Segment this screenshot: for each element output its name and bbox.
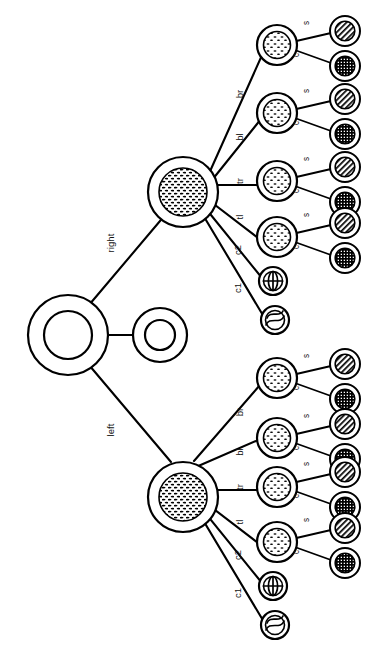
leaf-label-left-tl-c: c [292, 550, 301, 554]
leaf-label-right-br-c: c [292, 53, 301, 57]
edge-label-left-c1: c1 [232, 588, 243, 598]
leaf-right-tr-s[interactable] [330, 152, 360, 182]
edge-label-left-c2: c2 [232, 550, 243, 560]
leaf-label-right-tl-s: s [302, 213, 311, 217]
leaf-label-right-tr-s: s [302, 157, 311, 161]
node-left-tr[interactable] [257, 467, 297, 507]
node-left-br[interactable] [257, 358, 297, 398]
node-left-bl[interactable] [257, 418, 297, 458]
edge-label-right-bl: bl [234, 133, 245, 141]
leaf-right-br-s[interactable] [330, 16, 360, 46]
leaf-right-tl-s[interactable] [330, 208, 360, 238]
leaf-right-br-c[interactable] [330, 51, 360, 81]
leaf-label-left-br-c: c [292, 386, 301, 390]
node-right-br[interactable] [257, 25, 297, 65]
node-left-c2[interactable] [259, 572, 287, 600]
edge-label-left: left [105, 423, 116, 436]
leaf-label-right-bl-c: c [292, 121, 301, 125]
leaf-label-left-bl-s: s [302, 414, 311, 418]
leaf-right-tl-c[interactable] [330, 243, 360, 273]
leaf-label-left-br-s: s [302, 354, 311, 358]
edge-label-right-c2: c2 [232, 245, 243, 255]
leaf-label-right-tl-c: c [292, 245, 301, 249]
edge-label-left-tl: tl [234, 520, 245, 525]
edge-label-right-tr: tr [234, 178, 245, 184]
leaf-left-br-s[interactable] [330, 349, 360, 379]
edge-label-left-bl: bl [234, 448, 245, 456]
node-hub-right[interactable] [148, 157, 218, 227]
node-right-c1[interactable] [261, 306, 289, 334]
leaf-label-left-tr-s: s [302, 462, 311, 466]
edge-label-left-br: br [234, 408, 245, 417]
leaf-label-right-tr-c: c [292, 189, 301, 193]
leaf-label-left-bl-c: c [292, 446, 301, 450]
node-left-c1[interactable] [261, 611, 289, 639]
leaf-label-left-tl-s: s [302, 518, 311, 522]
edge-label-right: right [105, 233, 116, 252]
node-right-tr[interactable] [257, 161, 297, 201]
node-root-satellite[interactable] [133, 308, 187, 362]
edge-label-left-tr: tr [234, 484, 245, 490]
node-right-bl[interactable] [257, 93, 297, 133]
edge-label-right-c1: c1 [232, 283, 243, 293]
leaf-label-right-bl-s: s [302, 89, 311, 93]
edge-label-right-br: br [234, 90, 245, 99]
node-root[interactable] [28, 295, 108, 375]
node-hub-left[interactable] [148, 462, 218, 532]
leaf-right-bl-c[interactable] [330, 119, 360, 149]
leaf-left-tl-c[interactable] [330, 548, 360, 578]
node-right-c2[interactable] [259, 267, 287, 295]
edge-label-right-tl: tl [234, 215, 245, 220]
leaf-label-left-tr-c: c [292, 494, 301, 498]
leaf-left-bl-s[interactable] [330, 409, 360, 439]
leaf-label-right-br-s: s [302, 21, 311, 25]
tree-diagram-canvas: right left br bl tr tl c2 c1 br bl tr tl… [0, 0, 369, 666]
node-right-tl[interactable] [257, 217, 297, 257]
node-left-tl[interactable] [257, 522, 297, 562]
leaf-right-bl-s[interactable] [330, 84, 360, 114]
leaf-left-tl-s[interactable] [330, 513, 360, 543]
leaf-left-tr-s[interactable] [330, 457, 360, 487]
